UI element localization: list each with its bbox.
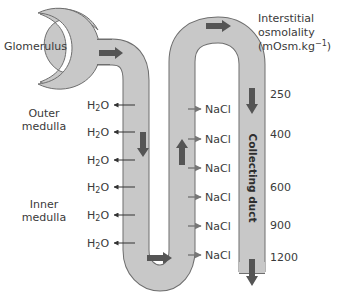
outer-medulla-line2: medulla bbox=[14, 120, 74, 133]
osmolality-value: 400 bbox=[270, 128, 291, 141]
water-label: H2O bbox=[87, 154, 109, 167]
salt-label: NaCl bbox=[205, 162, 231, 175]
outer-medulla-line1: Outer bbox=[14, 107, 74, 120]
salt-label: NaCl bbox=[205, 133, 231, 146]
salt-label: NaCl bbox=[205, 191, 231, 204]
salt-label: NaCl bbox=[205, 220, 231, 233]
glomerulus-label: Glomerulus bbox=[4, 40, 67, 53]
osmolality-value: 900 bbox=[270, 219, 291, 232]
osmolality-title-line1: Interstitial bbox=[258, 12, 331, 26]
water-label: H2O bbox=[87, 181, 109, 194]
osmolality-value: 250 bbox=[270, 88, 291, 101]
water-label: H2O bbox=[87, 237, 109, 250]
osmolality-value: 1200 bbox=[270, 251, 298, 264]
outer-medulla-label: Outer medulla bbox=[14, 107, 74, 133]
inner-medulla-line2: medulla bbox=[14, 211, 74, 224]
osmolality-value: 600 bbox=[270, 181, 291, 194]
collecting-duct-label: Collecting duct bbox=[239, 128, 266, 228]
water-label: H2O bbox=[87, 99, 109, 112]
inner-medulla-label: Inner medulla bbox=[14, 198, 74, 224]
osmolality-title-line3: (mOsm.kg−1) bbox=[258, 40, 331, 54]
osmolality-title: Interstitial osmolality (mOsm.kg−1) bbox=[258, 12, 331, 54]
water-label: H2O bbox=[87, 126, 109, 139]
salt-label: NaCl bbox=[205, 249, 231, 262]
osmolality-title-line2: osmolality bbox=[258, 26, 331, 40]
water-label: H2O bbox=[87, 209, 109, 222]
collecting-duct-text: Collecting duct bbox=[247, 134, 259, 223]
salt-label: NaCl bbox=[205, 103, 231, 116]
inner-medulla-line1: Inner bbox=[14, 198, 74, 211]
